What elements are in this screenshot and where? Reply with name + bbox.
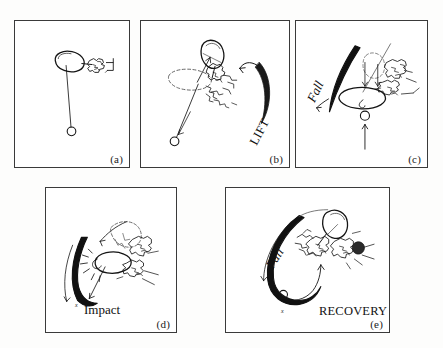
panel-d: x Impact (d) bbox=[45, 187, 177, 333]
annotation-recovery: RECOVERY bbox=[319, 304, 387, 319]
panel-b-drawing bbox=[141, 21, 289, 167]
panel-label-c: (c) bbox=[408, 153, 421, 165]
panel-label-d: (d) bbox=[157, 318, 170, 330]
panel-a: (a) bbox=[14, 20, 130, 168]
panel-label-b: (b) bbox=[270, 153, 283, 165]
panel-b: LIFT (b) bbox=[140, 20, 290, 168]
panel-label-a: (a) bbox=[110, 153, 123, 165]
annotation-impact: Impact bbox=[84, 302, 120, 318]
panel-label-e: (e) bbox=[370, 318, 383, 330]
recovery-x-marker: x bbox=[281, 308, 284, 314]
panel-e: Fall x RECOVERY (e) bbox=[225, 187, 390, 333]
panel-a-drawing bbox=[15, 21, 129, 167]
figure-root: (a) bbox=[0, 0, 443, 348]
impact-x-marker: x bbox=[75, 302, 78, 308]
panel-c: Fall (c) bbox=[295, 20, 428, 168]
